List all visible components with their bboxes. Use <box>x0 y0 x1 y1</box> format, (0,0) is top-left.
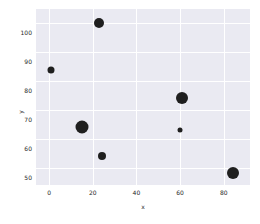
y-tick-label: 80 <box>6 87 36 94</box>
gridline-vertical <box>49 9 50 185</box>
y-tick-label: 90 <box>6 58 36 65</box>
x-tick-label: 0 <box>34 189 64 196</box>
scatter-point <box>48 66 55 73</box>
scatter-point <box>75 121 88 134</box>
scatter-point <box>227 167 239 179</box>
scatter-point <box>94 18 104 28</box>
gridline-vertical <box>224 9 225 185</box>
gridline-horizontal <box>36 23 250 24</box>
y-tick-label: 100 <box>6 29 36 36</box>
x-tick-label: 40 <box>121 189 151 196</box>
gridline-horizontal <box>36 139 250 140</box>
y-axis-tick-labels: 5060708090100 <box>0 9 36 185</box>
scatter-point <box>176 92 188 104</box>
x-axis-label: x <box>36 203 250 210</box>
gridline-vertical <box>136 9 137 185</box>
scatter-chart-figure: y 5060708090100 020406080 x <box>0 0 260 224</box>
gridline-horizontal <box>36 168 250 169</box>
x-axis-tick-labels: 020406080 <box>36 189 250 203</box>
x-tick-label: 20 <box>78 189 108 196</box>
y-tick-label: 50 <box>6 173 36 180</box>
y-tick-label: 70 <box>6 115 36 122</box>
gridline-horizontal <box>36 110 250 111</box>
plot-area <box>36 9 250 185</box>
scatter-point <box>178 128 183 133</box>
gridline-vertical <box>93 9 94 185</box>
scatter-point <box>98 152 106 160</box>
y-tick-label: 60 <box>6 144 36 151</box>
x-tick-label: 80 <box>209 189 239 196</box>
x-tick-label: 60 <box>165 189 195 196</box>
gridline-horizontal <box>36 52 250 53</box>
gridline-horizontal <box>36 81 250 82</box>
